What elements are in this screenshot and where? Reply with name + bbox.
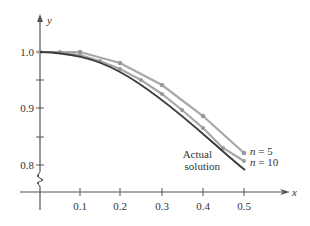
y-axis-arrow-icon xyxy=(37,14,43,22)
x-tick-0-3: 0.3 xyxy=(155,200,169,212)
x-axis xyxy=(20,188,290,196)
series-actual xyxy=(40,52,245,170)
legend-n10: n = 10 xyxy=(250,156,279,168)
x-tick-0-1: 0.1 xyxy=(73,200,87,212)
y-tick-0-9: 0.9 xyxy=(20,102,34,114)
y-axis-label: y xyxy=(46,14,52,26)
y-tick-0-8: 0.8 xyxy=(20,159,34,171)
annotation-actual-line1: Actual xyxy=(183,148,212,160)
series-n10 xyxy=(40,50,246,163)
x-tick-0-2: 0.2 xyxy=(113,200,127,212)
x-tick-0-4: 0.4 xyxy=(196,200,210,212)
x-axis-label: x xyxy=(291,186,297,198)
x-tick-0-5: 0.5 xyxy=(237,200,251,212)
y-tick-1-0: 1.0 xyxy=(20,46,34,58)
chart: y 1.0 0.9 0.8 x 0.1 0.2 0.3 0.4 0.5 xyxy=(0,0,310,226)
y-axis xyxy=(36,14,44,210)
annotation-actual-line2: solution xyxy=(185,160,221,172)
